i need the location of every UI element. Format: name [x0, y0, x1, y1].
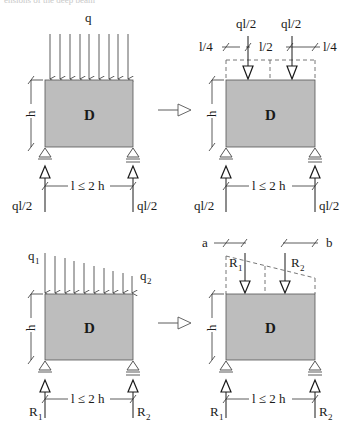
- right-reaction-subscript: 2: [146, 412, 151, 422]
- load-q1-label: q: [28, 248, 35, 263]
- span-dimension: l ≤ 2 h: [42, 178, 136, 193]
- height-dimension: h: [23, 76, 43, 151]
- load-label-q: q: [85, 10, 92, 25]
- load-left-label: ql/2: [236, 16, 256, 31]
- height-label: h: [23, 324, 38, 331]
- transform-arrow-top: [158, 104, 191, 116]
- right-reaction-label: R: [319, 404, 328, 419]
- height-label: h: [204, 324, 219, 331]
- resultant-r1-label: R: [229, 255, 238, 270]
- span-dimension: l ≤ 2 h: [42, 391, 136, 406]
- dim-a-label: a: [202, 235, 208, 250]
- dim-mid-label: l/2: [259, 39, 273, 54]
- height-label: h: [204, 110, 219, 117]
- resultant-r2-label: R: [291, 255, 300, 270]
- pin-support: [38, 148, 52, 159]
- right-reaction-subscript: 2: [328, 412, 333, 422]
- height-dimension: h: [204, 290, 224, 364]
- load-right-label: ql/2: [281, 16, 301, 31]
- height-dimension: h: [23, 290, 43, 364]
- point-load-left-arrow: [243, 36, 253, 79]
- left-reaction-subscript: 1: [38, 412, 43, 422]
- dashed-trapezoid-load: [226, 256, 315, 294]
- left-reaction-label: R: [29, 404, 38, 419]
- beam-label: D: [84, 107, 95, 123]
- beam-label: D: [84, 320, 95, 336]
- deep-beam-diagram: ensions of the deep beam q D h: [0, 0, 353, 435]
- span-label: l ≤ 2 h: [252, 178, 286, 193]
- span-label: l ≤ 2 h: [252, 391, 286, 406]
- resultant-position-dimension: a b: [202, 235, 333, 250]
- resultant-r2-arrow: [280, 253, 290, 293]
- pin-support: [38, 361, 52, 372]
- right-reaction-label: ql/2: [319, 198, 339, 213]
- resultant-r2-subscript: 2: [300, 263, 305, 273]
- left-reaction-label: ql/2: [194, 198, 214, 213]
- load-q2-subscript: 2: [147, 276, 152, 286]
- span-label: l ≤ 2 h: [71, 391, 105, 406]
- panel-top-right: ql/2 ql/2 l/4 l/2 l/4: [194, 16, 339, 213]
- distributed-load-arrows: [50, 34, 128, 79]
- panel-bottom-right: a b R 1 R 2 D h: [202, 235, 333, 422]
- pin-support: [219, 361, 233, 372]
- left-reaction-label: R: [210, 404, 219, 419]
- height-dimension: h: [204, 76, 224, 151]
- dim-right-label: l/4: [323, 39, 337, 54]
- span-dimension: l ≤ 2 h: [223, 178, 318, 193]
- resultant-r1-arrow: [240, 253, 250, 293]
- trapezoidal-load-arrows: [45, 253, 132, 293]
- panel-bottom-left: q 1 q 2 D h: [23, 248, 152, 422]
- caption-fragment: ensions of the deep beam: [4, 0, 95, 5]
- dashed-load-region: [226, 60, 315, 80]
- height-label: h: [23, 110, 38, 117]
- beam-label: D: [265, 320, 276, 336]
- load-q1-subscript: 1: [35, 256, 40, 266]
- panel-top-left: q D h: [12, 10, 157, 213]
- point-load-right-arrow: [287, 36, 297, 79]
- dim-b-label: b: [326, 235, 333, 250]
- resultant-r1-subscript: 1: [238, 263, 243, 273]
- roller-support: [308, 148, 322, 162]
- span-label: l ≤ 2 h: [71, 178, 105, 193]
- right-reaction-label: ql/2: [137, 198, 157, 213]
- span-dimension: l ≤ 2 h: [223, 391, 318, 406]
- dim-left-label: l/4: [199, 39, 213, 54]
- transform-arrow-bottom: [158, 317, 191, 329]
- roller-support: [126, 148, 140, 162]
- left-reaction-arrow: [40, 166, 50, 212]
- left-reaction-arrow: [221, 166, 231, 212]
- roller-support: [126, 361, 140, 375]
- roller-support: [308, 361, 322, 375]
- right-reaction-label: R: [137, 404, 146, 419]
- pin-support: [219, 148, 233, 159]
- beam-label: D: [265, 107, 276, 123]
- load-position-dimension: l/4 l/2 l/4: [199, 39, 337, 54]
- left-reaction-label: ql/2: [12, 198, 32, 213]
- load-q2-label: q: [140, 268, 147, 283]
- left-reaction-subscript: 1: [219, 412, 224, 422]
